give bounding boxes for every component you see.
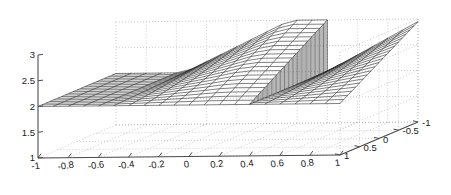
- svg-text:0.6: 0.6: [270, 157, 285, 170]
- svg-text:-0.2: -0.2: [147, 158, 165, 171]
- svg-text:2.5: 2.5: [22, 75, 35, 86]
- svg-text:1: 1: [334, 157, 341, 169]
- svg-text:-0.5: -0.5: [403, 125, 419, 136]
- svg-text:2: 2: [30, 101, 35, 112]
- svg-text:-0.6: -0.6: [87, 158, 105, 171]
- svg-text:0.8: 0.8: [300, 156, 315, 169]
- svg-text:-0.4: -0.4: [117, 158, 135, 171]
- axis-tick-labels: -1-0.8-0.6-0.4-0.200.20.40.60.81-1-0.500…: [22, 49, 431, 171]
- plot-canvas: -1-0.8-0.6-0.4-0.200.20.40.60.81-1-0.500…: [0, 0, 451, 195]
- svg-text:1: 1: [344, 150, 349, 161]
- floor-gridlines: [38, 122, 418, 158]
- svg-text:0: 0: [183, 158, 190, 170]
- svg-text:0.5: 0.5: [364, 142, 377, 153]
- svg-text:0.2: 0.2: [209, 157, 224, 170]
- svg-text:1.5: 1.5: [22, 127, 35, 138]
- svg-text:3: 3: [30, 49, 35, 60]
- svg-text:1: 1: [30, 152, 35, 163]
- surface-plot-figure: -1-0.8-0.6-0.4-0.200.20.40.60.81-1-0.500…: [0, 0, 451, 195]
- svg-text:0.4: 0.4: [240, 157, 255, 170]
- svg-text:0: 0: [383, 134, 388, 145]
- surface-mesh: [38, 20, 418, 107]
- svg-text:-0.8: -0.8: [57, 159, 75, 172]
- svg-text:-1: -1: [422, 117, 430, 128]
